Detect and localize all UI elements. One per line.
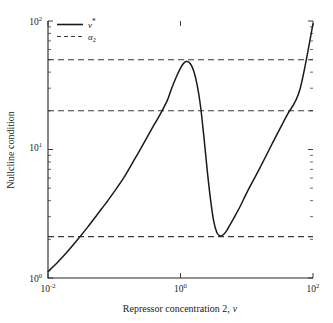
y-axis-title: Nullcline condition: [5, 111, 16, 189]
y-tick-label-1: 100: [29, 272, 43, 284]
x-tick-label-1: 100: [174, 282, 188, 294]
x-axis-title: Repressor concentration 2,v: [123, 303, 238, 314]
x-tick-label-100: 102: [307, 282, 320, 294]
y-tick-label-10: 101: [29, 141, 42, 153]
figure-container: 102 101 100 10-2 100 102 Repressor conce…: [0, 0, 333, 323]
y-tick-label-100: 102: [29, 15, 42, 27]
x-tick-label-0.01: 10-2: [41, 282, 56, 294]
nullcline-condition-chart: 102 101 100 10-2 100 102 Repressor conce…: [0, 0, 333, 323]
